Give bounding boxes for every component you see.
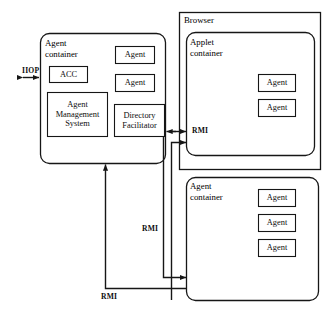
architecture-diagram: Agentcontainer Browser Appletcontainer A… xyxy=(0,0,332,319)
agent-remote-3-box-label: Agent xyxy=(258,239,296,257)
rmi-vertical-connection-label: RMI xyxy=(142,224,158,233)
agent-management-system-box-label: Agent Management System xyxy=(47,92,108,137)
agent-container-remote-title: Agentcontainer xyxy=(190,181,250,202)
directory-facilitator-box-label: Directory Facilitator xyxy=(114,104,165,137)
agent-container-remote-title-line2: container xyxy=(190,192,223,202)
ams-label-line1: Agent xyxy=(67,100,87,109)
browser-title: Browser xyxy=(184,15,244,26)
agent-container-main-title-line1: Agent xyxy=(45,38,67,48)
browser-title-line1: Browser xyxy=(184,15,214,25)
agent-main-1-box-label: Agent xyxy=(115,46,155,64)
df-label-line2: Facilitator xyxy=(122,121,156,130)
agent-main-2-box-label: Agent xyxy=(115,74,155,92)
agent-applet-1-box-label: Agent xyxy=(258,74,296,92)
applet-container-title-line1: Applet xyxy=(190,37,214,47)
rmi-applet-connection-label: RMI xyxy=(192,126,208,135)
ams-label-line3: System xyxy=(65,119,90,128)
agent-remote-2-box-label: Agent xyxy=(258,214,296,232)
df-label-line1: Directory xyxy=(123,111,155,120)
agent-applet-2-box-label: Agent xyxy=(258,99,296,117)
applet-container-title: Appletcontainer xyxy=(190,37,250,58)
agent-container-remote-title-line1: Agent xyxy=(190,181,212,191)
rmi-remote-to-applet-path xyxy=(172,143,187,301)
acc-box-label: ACC xyxy=(49,66,88,83)
ams-label-line2: Management xyxy=(56,110,100,119)
iiop-connection-label: IIOP xyxy=(22,66,39,75)
agent-remote-1-box-label: Agent xyxy=(258,189,296,207)
agent-container-main-title: Agentcontainer xyxy=(45,38,101,59)
rmi-applet-to-remote-path xyxy=(164,137,187,278)
rmi-bottom-connection-label: RMI xyxy=(101,292,117,301)
applet-container-title-line2: container xyxy=(190,48,223,58)
agent-container-main-title-line2: container xyxy=(45,49,78,59)
